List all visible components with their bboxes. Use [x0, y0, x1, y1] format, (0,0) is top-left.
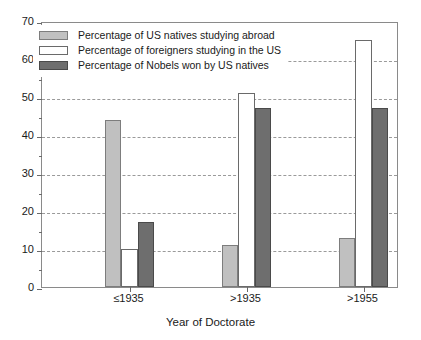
y-axis-tick	[37, 23, 42, 24]
bar	[121, 249, 138, 287]
y-axis-tick-label: 30	[4, 168, 34, 179]
x-axis-tick-label: ≤1935	[89, 292, 169, 304]
y-axis-minor-tick	[39, 194, 42, 195]
chart-legend: Percentage of US natives studying abroad…	[33, 25, 287, 77]
y-axis-tick-label: 10	[4, 244, 34, 255]
legend-item-label: Percentage of Nobels won by US natives	[78, 60, 269, 71]
bar	[372, 108, 389, 287]
y-axis-tick	[37, 251, 42, 252]
legend-swatch-icon	[39, 46, 68, 55]
y-axis-tick	[37, 99, 42, 100]
bar	[238, 93, 255, 287]
y-axis-tick	[37, 213, 42, 214]
legend-item-label: Percentage of foreigners studying in the…	[78, 45, 281, 56]
y-axis-tick-label: 0	[4, 282, 34, 293]
y-axis-tick	[37, 289, 42, 290]
legend-swatch-icon	[39, 31, 68, 40]
legend-item: Percentage of Nobels won by US natives	[39, 58, 281, 73]
y-axis-minor-tick	[39, 232, 42, 233]
y-axis-minor-tick	[39, 118, 42, 119]
y-axis-tick-label: 20	[4, 206, 34, 217]
legend-item: Percentage of US natives studying abroad	[39, 28, 281, 43]
legend-swatch-icon	[39, 61, 68, 70]
bar	[255, 108, 272, 287]
bar	[339, 238, 356, 287]
bar	[105, 120, 122, 287]
x-axis-title: Year of Doctorate	[0, 316, 421, 328]
x-axis-tick-label: >1955	[323, 292, 403, 304]
y-axis-tick-label: 40	[4, 130, 34, 141]
bar-chart-figure: 010203040506070 ≤1935>1935>1955 Year of …	[0, 0, 421, 340]
legend-item-label: Percentage of US natives studying abroad	[78, 30, 275, 41]
y-axis-tick-label: 50	[4, 92, 34, 103]
gridline	[42, 99, 397, 100]
y-axis-tick-label: 60	[4, 54, 34, 65]
x-axis-tick-label: >1935	[206, 292, 286, 304]
y-axis-minor-tick	[39, 80, 42, 81]
y-axis-minor-tick	[39, 156, 42, 157]
y-axis-tick	[37, 137, 42, 138]
y-axis-tick-label: 70	[4, 16, 34, 27]
legend-item: Percentage of foreigners studying in the…	[39, 43, 281, 58]
y-axis-minor-tick	[39, 270, 42, 271]
gridline	[42, 175, 397, 176]
gridline	[42, 213, 397, 214]
gridline	[42, 137, 397, 138]
bar	[222, 245, 239, 287]
bar	[138, 222, 155, 287]
y-axis-tick	[37, 175, 42, 176]
bar	[355, 40, 372, 287]
